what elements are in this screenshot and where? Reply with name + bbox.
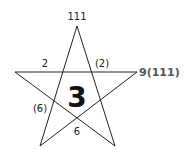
label-lower-left: (6): [33, 104, 47, 114]
label-upper-left: 2: [42, 59, 48, 69]
label-upper-right: (2): [95, 59, 109, 69]
star-shape: [0, 0, 186, 161]
label-top: 111: [67, 12, 86, 22]
label-center: 3: [67, 84, 86, 112]
label-bottom: 6: [74, 127, 80, 137]
pentagram-diagram: 111 2 (2) 9(111) 3 (6) 6: [0, 0, 186, 161]
label-right-side: 9(111): [139, 67, 180, 78]
